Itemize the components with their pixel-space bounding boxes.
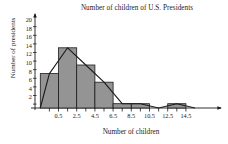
bar-3 [95,82,113,108]
x-tick-marks [49,108,186,112]
chart-plot-area [0,0,228,144]
histogram-bars [40,48,186,108]
bar-5 [131,104,149,108]
bar-0 [40,74,58,108]
bar-6 [168,104,186,108]
bar-4 [113,104,131,108]
chart-container: Number of children of U.S. Presidents Nu… [0,0,228,144]
